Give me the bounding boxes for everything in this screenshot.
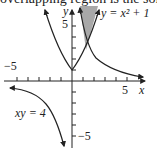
x-axis-label: x (138, 83, 145, 97)
graph: y 5 −5 −5 5 x y = x² + 1 xy = 4 (0, 0, 157, 150)
shaded-region (80, 6, 98, 50)
y-tick-label-neg5: −5 (78, 129, 91, 143)
x-tick-label-neg5: −5 (4, 59, 17, 73)
y-tick-label-5: 5 (62, 17, 68, 31)
parabola-label: y = x² + 1 (100, 6, 149, 20)
hyperbola-label: xy = 4 (14, 106, 46, 120)
y-axis-label: y (62, 4, 69, 18)
x-tick-label-5: 5 (122, 83, 128, 97)
